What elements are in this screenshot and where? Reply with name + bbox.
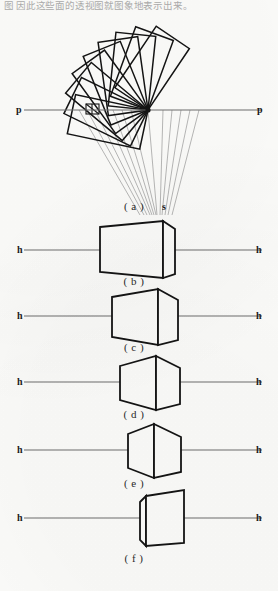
box-front-face-e — [128, 424, 154, 478]
panel-c-group — [24, 289, 262, 345]
panel-e-group — [24, 424, 262, 478]
caption-e: ( e ) — [104, 477, 164, 489]
panel-a-group — [24, 26, 262, 215]
box-front-face-b — [100, 221, 163, 278]
projector-ray — [165, 110, 181, 215]
caption-b: ( b ) — [104, 275, 164, 287]
box-front-face-d — [120, 356, 156, 410]
horizon-label-e-right: h — [256, 444, 262, 455]
horizon-label-b-left: h — [17, 244, 23, 255]
horizon-label-b-right: h — [256, 244, 262, 255]
box-side-face-b — [163, 221, 175, 278]
horizon-label-d-left: h — [17, 376, 23, 387]
panel-b-group — [24, 221, 262, 278]
pivot-point — [145, 107, 150, 112]
projector-ray — [172, 110, 199, 215]
caption-c: ( c ) — [104, 341, 164, 353]
box-front-face-c — [112, 289, 158, 345]
figure-canvas — [0, 0, 278, 591]
panel-f-group — [24, 490, 262, 546]
projector-ray — [168, 110, 190, 215]
box-side-face-e — [154, 424, 181, 478]
horizon-label-f-right: h — [256, 512, 262, 523]
horizon-label-d-right: h — [256, 376, 262, 387]
horizon-label-c-right: h — [256, 310, 262, 321]
box-side-face-c — [158, 289, 178, 345]
horizon-label-c-left: h — [17, 310, 23, 321]
diagram-page: 图 因此这些面的透视图就图象地表示出来。 — [0, 0, 278, 591]
caption-a: ( a ) — [104, 200, 164, 212]
picture-plane-label-right: p — [257, 104, 263, 115]
rotating-planes-fan — [64, 26, 189, 149]
box-side-face-d — [156, 356, 180, 410]
horizon-label-e-left: h — [17, 444, 23, 455]
picture-plane-label-left: p — [16, 104, 22, 115]
panel-d-group — [24, 356, 262, 410]
caption-d: ( d ) — [104, 408, 164, 420]
horizon-label-f-left: h — [17, 512, 23, 523]
caption-f: ( f ) — [104, 552, 164, 564]
box-side-face-f — [146, 490, 184, 546]
